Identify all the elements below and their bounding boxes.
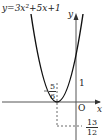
y-axis-label: y [68,9,73,19]
y-intercept-label: 1 [79,78,85,88]
origin-label: O [78,103,85,113]
vertex-x-denominator: 6 [50,92,55,101]
y-axis-arrow-icon [74,13,79,20]
x-axis-label: x [97,104,102,114]
vertex-y-denominator: 12 [87,128,97,137]
vertex-y-fraction: 13 12 [86,118,98,137]
vertex-y-numerator: 13 [86,118,98,128]
vertex-x-numerator: 5 [49,82,56,92]
vertex-x-fraction: 5 6 [49,82,56,101]
equation-label: y=3x²+5x+1 [2,3,61,13]
